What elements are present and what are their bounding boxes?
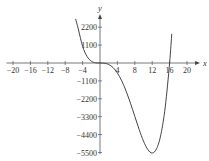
y-axis-label: y: [97, 3, 102, 13]
y-axis-arrow: [98, 14, 102, 19]
y-tick-label: −4400: [76, 131, 97, 140]
x-tick-label: −4: [78, 66, 87, 75]
x-tick-label: −8: [61, 66, 70, 75]
y-tick-label: −1100: [77, 77, 97, 86]
y-tick-label: 2200: [81, 23, 97, 32]
x-axis-label: x: [202, 58, 207, 68]
chart: −20−16−12−8−448121620 22001100−1100−2200…: [0, 0, 209, 161]
x-tick-label: −20: [7, 66, 20, 75]
y-tick-label: −2200: [76, 95, 97, 104]
x-tick-label: 20: [183, 66, 191, 75]
y-tick-label: −3300: [76, 113, 97, 122]
x-axis-arrow: [195, 61, 200, 65]
y-ticks: 22001100−1100−2200−3300−4400−5500: [76, 23, 102, 157]
y-tick-label: −5500: [76, 149, 97, 158]
x-tick-label: 12: [148, 66, 156, 75]
x-tick-label: 8: [133, 66, 137, 75]
x-tick-label: −12: [42, 66, 55, 75]
x-tick-label: −16: [24, 66, 37, 75]
